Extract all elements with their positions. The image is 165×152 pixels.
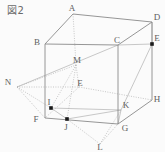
line-C-E (118, 44, 152, 45)
vertex-label-k: K (123, 101, 130, 110)
vertex-label-c: C (114, 36, 120, 45)
edge-N-I (17, 87, 51, 108)
vertex-label-e: E (77, 79, 83, 88)
vertex-label-i: I (48, 98, 51, 107)
edge-L-J (67, 119, 100, 144)
vertex-label-n: N (5, 78, 12, 87)
vertex-dot-i (49, 106, 53, 110)
vertex-label-a: A (69, 4, 76, 13)
line-I-K (51, 108, 121, 110)
vertex-dot-p (150, 42, 154, 46)
edge-N-F (17, 87, 45, 118)
edge-A-D (73, 14, 152, 22)
dotted-edges-group (17, 14, 152, 144)
vertex-label-p: E (154, 34, 160, 43)
vertex-label-l: L (97, 143, 103, 152)
vertex-label-b: B (34, 38, 40, 47)
geometry-diagram-svg (0, 0, 165, 152)
line-N-C (17, 45, 118, 87)
vertex-label-j: J (64, 123, 68, 132)
edge-N-M (17, 65, 76, 87)
figure-container: 図2 ABCDEFGHMNIJKLE (0, 0, 165, 152)
vertex-label-m: M (73, 56, 81, 65)
vertex-label-d: D (154, 13, 161, 22)
vertex-label-f: F (33, 115, 38, 124)
line-I-J (51, 108, 67, 119)
vertex-dot-j (65, 117, 69, 121)
edge-E-H (79, 87, 152, 100)
edge-M-J (67, 65, 76, 119)
edge-B-C (45, 44, 118, 45)
vertex-dots-group (49, 42, 154, 121)
line-J-K (67, 110, 121, 119)
edge-F-G (45, 118, 118, 124)
vertex-label-h: H (154, 95, 161, 104)
edge-C-D (118, 22, 152, 45)
vertex-label-g: G (122, 124, 129, 133)
edge-A-B (45, 14, 73, 44)
